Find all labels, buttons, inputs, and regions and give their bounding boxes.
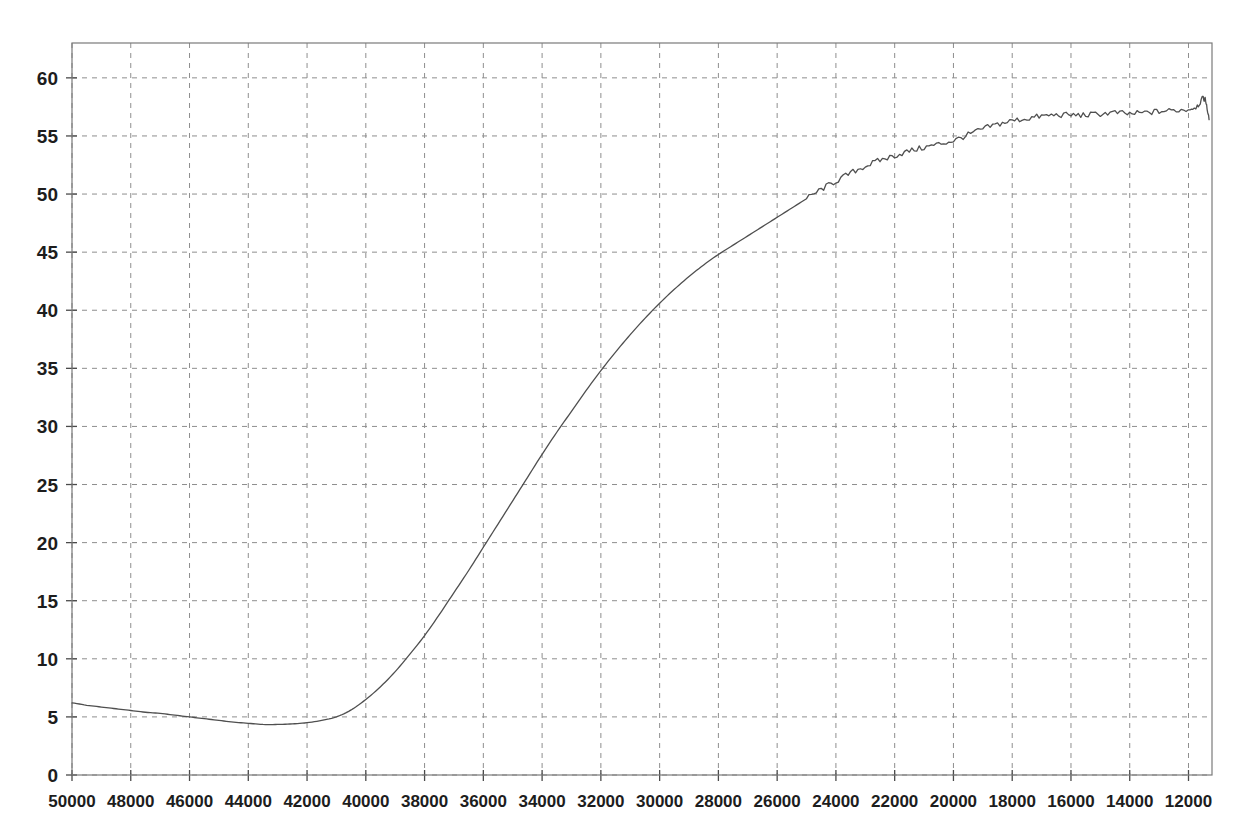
- x-tick-label: 14000: [1106, 792, 1153, 811]
- x-tick-label: 34000: [518, 792, 565, 811]
- y-tick-label: 5: [47, 707, 58, 728]
- x-tick-label: 24000: [812, 792, 859, 811]
- y-tick-label: 20: [37, 533, 58, 554]
- y-tick-label: 50: [37, 184, 58, 205]
- x-tick-label: 46000: [166, 792, 213, 811]
- y-tick-label: 10: [37, 649, 58, 670]
- y-tick-label: 40: [37, 300, 58, 321]
- x-tick-label: 36000: [460, 792, 507, 811]
- x-tick-label: 50000: [48, 792, 95, 811]
- y-tick-label: 55: [37, 126, 59, 147]
- y-tick-label: 25: [37, 475, 59, 496]
- x-tick-label: 38000: [401, 792, 448, 811]
- chart-background: [0, 0, 1252, 835]
- line-chart: 051015202530354045505560 500004800046000…: [0, 0, 1252, 835]
- x-tick-label: 12000: [1165, 792, 1212, 811]
- x-tick-label: 22000: [871, 792, 918, 811]
- x-tick-label: 48000: [107, 792, 154, 811]
- y-tick-label: 60: [37, 68, 58, 89]
- y-tick-label: 15: [37, 591, 59, 612]
- x-tick-label: 26000: [754, 792, 801, 811]
- x-tick-label: 30000: [636, 792, 683, 811]
- x-tick-label: 40000: [342, 792, 389, 811]
- x-tick-label: 28000: [695, 792, 742, 811]
- x-tick-label: 20000: [930, 792, 977, 811]
- x-tick-label: 32000: [577, 792, 624, 811]
- y-tick-label: 35: [37, 358, 59, 379]
- y-tick-label: 30: [37, 416, 58, 437]
- y-tick-label: 45: [37, 242, 59, 263]
- chart-container: 051015202530354045505560 500004800046000…: [0, 0, 1252, 835]
- x-tick-label: 44000: [225, 792, 272, 811]
- x-tick-label: 18000: [989, 792, 1036, 811]
- x-tick-label: 42000: [283, 792, 330, 811]
- x-tick-label: 16000: [1047, 792, 1094, 811]
- y-tick-label: 0: [47, 765, 58, 786]
